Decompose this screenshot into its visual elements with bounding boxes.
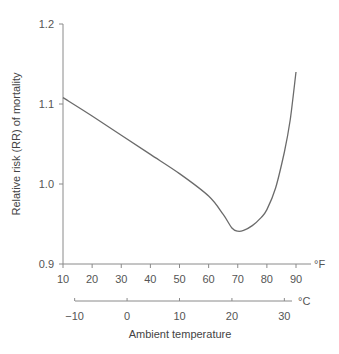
fahrenheit-tick-label: 80: [261, 273, 273, 285]
y-tick-label: 1.1: [39, 98, 54, 110]
fahrenheit-tick-label: 30: [115, 273, 127, 285]
fahrenheit-tick-label: 70: [232, 273, 244, 285]
rr-curve: [63, 72, 296, 231]
celsius-tick-label: 10: [173, 310, 185, 322]
x-axis-celsius-ticks: −100102030: [65, 298, 290, 322]
y-tick-label: 0.9: [39, 258, 54, 270]
celsius-tick-label: −10: [65, 310, 84, 322]
fahrenheit-tick-label: 40: [144, 273, 156, 285]
y-axis-ticks: 0.91.01.11.2: [39, 18, 63, 270]
x-axis-title: Ambient temperature: [129, 328, 232, 340]
celsius-tick-label: 30: [278, 310, 290, 322]
y-axis-title: Relative risk (RR) of mortality: [10, 72, 22, 216]
celsius-unit-label: °C: [298, 295, 310, 307]
y-tick-label: 1.0: [39, 178, 54, 190]
rr-temperature-chart: 0.91.01.11.2 Relative risk (RR) of morta…: [0, 0, 339, 354]
fahrenheit-tick-label: 20: [86, 273, 98, 285]
x-axis-fahrenheit-ticks: 102030405060708090: [57, 264, 302, 285]
celsius-tick-label: 0: [124, 310, 130, 322]
fahrenheit-unit-label: °F: [314, 258, 325, 270]
fahrenheit-tick-label: 60: [203, 273, 215, 285]
celsius-tick-label: 20: [226, 310, 238, 322]
fahrenheit-tick-label: 10: [57, 273, 69, 285]
fahrenheit-tick-label: 50: [173, 273, 185, 285]
y-tick-label: 1.2: [39, 18, 54, 30]
fahrenheit-tick-label: 90: [290, 273, 302, 285]
